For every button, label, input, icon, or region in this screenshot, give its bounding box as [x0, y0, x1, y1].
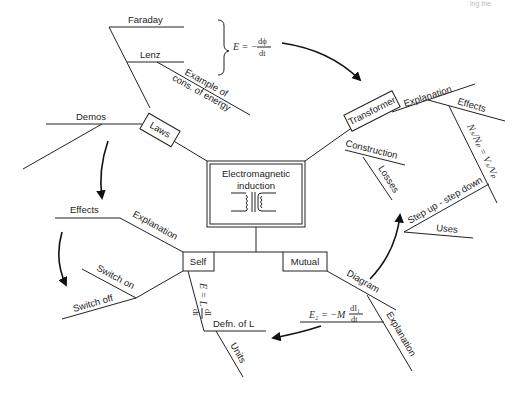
- node-self[interactable]: Self: [183, 252, 214, 271]
- faraday-formula-lhs: E = −: [232, 41, 258, 52]
- label-losses: Losses: [376, 163, 401, 195]
- self-formula-den: dt: [191, 309, 201, 316]
- mutual-formula-den: dt: [351, 314, 358, 324]
- label-units: Units: [228, 341, 248, 365]
- self-formula-lhs: E = L: [198, 282, 209, 307]
- node-self-label: Self: [190, 256, 207, 267]
- arrow-diagram-to-transformer: [370, 215, 400, 279]
- label-demos: Demos: [76, 111, 106, 122]
- header-cut-text: ing the: [470, 0, 491, 8]
- mutual-formula-lhs: E₂ = −M: [308, 309, 346, 320]
- label-turns-ratio: Nₛ/Nₚ = Vₛ/Vₚ: [465, 121, 502, 181]
- arrow-demos-to-self: [101, 141, 108, 198]
- label-uses: Uses: [436, 222, 459, 235]
- center-node[interactable]: Electromagnetic induction: [207, 161, 305, 227]
- label-defn-of-l: Defn. of L: [213, 318, 254, 329]
- faraday-formula-den: dt: [259, 48, 266, 58]
- arrow-faraday-to-transformer: [282, 43, 360, 80]
- center-title-line2: induction: [237, 180, 275, 191]
- node-transformer[interactable]: Transformer: [344, 91, 400, 132]
- center-title-line1: Electromagnetic: [222, 168, 290, 179]
- label-faraday: Faraday: [128, 14, 163, 25]
- mutual-formula-num: dI₁: [350, 303, 360, 313]
- arrow-effects-to-switch: [59, 232, 66, 285]
- label-lenz: Lenz: [140, 49, 161, 60]
- node-laws[interactable]: Laws: [140, 113, 180, 147]
- self-formula-num: dI: [203, 309, 213, 316]
- arrow-mutual-formula-to-self: [273, 326, 321, 338]
- faraday-formula-num: dϕ: [258, 36, 267, 46]
- mind-map-canvas: ing the Electromagnetic induction Laws F…: [0, 0, 520, 394]
- label-self-effects: Effects: [70, 204, 99, 215]
- label-step-up-down: Step up - step down: [406, 174, 485, 226]
- brace: [218, 20, 229, 75]
- label-transformer-effects: Effects: [456, 95, 487, 114]
- label-construction: Construction: [345, 137, 399, 161]
- node-mutual[interactable]: Mutual: [283, 252, 327, 271]
- node-mutual-label: Mutual: [291, 256, 320, 267]
